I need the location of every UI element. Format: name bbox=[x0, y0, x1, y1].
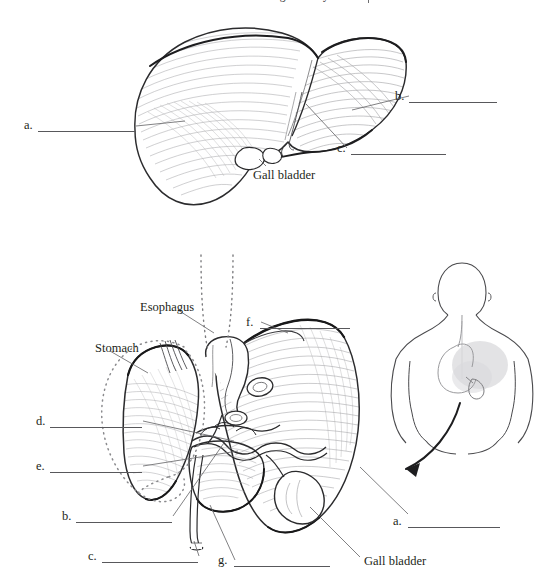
label-a-top-blank[interactable] bbox=[38, 131, 136, 132]
label-c-bottom-key: c. bbox=[88, 549, 97, 564]
label-f-bottom-key: f. bbox=[246, 315, 253, 330]
esophagus-callout: Esophagus bbox=[140, 300, 194, 315]
worksheet-page: Digestive System bbox=[0, 0, 534, 578]
label-b-bottom-blank[interactable] bbox=[76, 522, 172, 523]
label-e-bottom-key: e. bbox=[36, 459, 45, 474]
label-d-bottom-blank[interactable] bbox=[50, 427, 142, 428]
label-b-top-key: b. bbox=[395, 89, 404, 104]
liver-anterior-illustration bbox=[0, 0, 534, 240]
label-e-bottom-blank[interactable] bbox=[50, 472, 142, 473]
label-c-top-blank[interactable] bbox=[351, 154, 446, 155]
label-a-top-key: a. bbox=[24, 118, 33, 133]
stomach-callout: Stomach bbox=[95, 341, 139, 356]
label-b-top-blank[interactable] bbox=[409, 102, 497, 103]
human-torso-posterior-figure bbox=[388, 255, 534, 505]
gall-bladder-callout-top: Gall bladder bbox=[253, 168, 315, 183]
label-f-bottom-blank[interactable] bbox=[260, 328, 350, 329]
gall-bladder-callout-bottom: Gall bladder bbox=[364, 554, 426, 569]
label-g-bottom-key: g. bbox=[218, 553, 227, 568]
label-c-bottom-blank[interactable] bbox=[102, 562, 198, 563]
label-g-bottom-blank[interactable] bbox=[234, 566, 330, 567]
label-a-bottom-key: a. bbox=[393, 514, 402, 529]
label-b-bottom-key: b. bbox=[62, 509, 71, 524]
label-d-bottom-key: d. bbox=[36, 414, 45, 429]
label-c-top-key: c. bbox=[337, 141, 346, 156]
label-a-bottom-blank[interactable] bbox=[408, 527, 500, 528]
